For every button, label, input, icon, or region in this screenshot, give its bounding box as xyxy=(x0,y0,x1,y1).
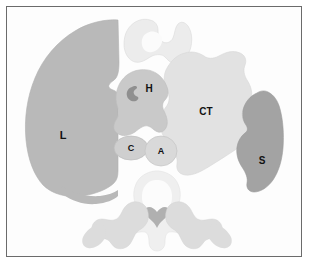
vena-cava-shape xyxy=(114,136,148,160)
figure-root: L CT H S C A xyxy=(0,0,310,265)
posterior-rib-right-tail xyxy=(208,224,232,249)
aorta-shape xyxy=(145,136,177,166)
left-lung-shape xyxy=(25,20,119,197)
posterior-rib-left-tail xyxy=(82,224,106,249)
heart-shape xyxy=(114,70,168,136)
anatomy-diagram: L CT H S C A xyxy=(0,0,310,265)
